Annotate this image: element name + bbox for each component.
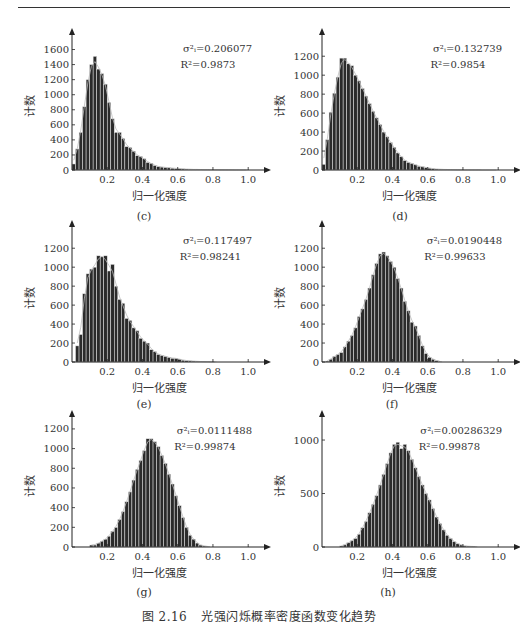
- histogram-bar: [378, 254, 382, 362]
- y-axis-label: 计数: [274, 287, 287, 309]
- y-axis-label: 计数: [24, 287, 37, 309]
- histogram-bar: [153, 442, 157, 547]
- histogram-bar: [139, 156, 143, 170]
- histogram-bar: [178, 506, 182, 547]
- histogram-bar: [146, 439, 150, 547]
- histogram-bar: [403, 161, 407, 170]
- r-squared-annotation: R²=0.9854: [431, 59, 486, 70]
- x-tick-label: 1.0: [240, 366, 256, 377]
- histogram-bar: [382, 474, 386, 547]
- histogram-bar: [146, 162, 150, 170]
- histogram-bar: [421, 485, 425, 547]
- histogram-bar: [364, 521, 368, 547]
- histogram-bar: [428, 500, 432, 547]
- panel-label-h: (h): [368, 586, 408, 599]
- histogram-bar: [382, 252, 386, 362]
- r-squared-annotation: R²=0.9873: [181, 59, 236, 70]
- x-tick-label: 1.0: [240, 551, 256, 562]
- histogram-bar: [368, 288, 372, 362]
- histogram-f: 0.20.40.60.81.0020040060080010001200归一化强…: [270, 222, 520, 397]
- histogram-bar: [118, 132, 122, 170]
- histogram-bar: [347, 341, 351, 362]
- histogram-bar: [114, 286, 118, 362]
- histogram-bar: [76, 346, 80, 362]
- panel-h: 0.20.40.60.81.005001000归一化强度计数σ²ᵢ=0.0028…: [270, 412, 520, 602]
- histogram-bar: [389, 453, 393, 547]
- y-tick-label: 600: [300, 108, 319, 119]
- y-tick-label: 400: [300, 127, 319, 138]
- y-tick-label: 600: [50, 300, 69, 311]
- y-axis-arrow-icon: [319, 220, 325, 227]
- histogram-bar: [93, 267, 97, 362]
- histogram-c: 0.20.40.60.81.00200400600800100012001400…: [20, 30, 270, 205]
- histogram-bar: [157, 167, 161, 170]
- panel-label-e: (e): [124, 398, 164, 411]
- y-tick-label: 1200: [44, 423, 69, 434]
- histogram-bar: [403, 444, 407, 547]
- histogram-bar: [139, 338, 143, 362]
- histogram-bar: [364, 299, 368, 362]
- x-tick-label: 0.8: [205, 174, 221, 185]
- histogram-bar: [392, 444, 396, 547]
- y-tick-label: 200: [50, 149, 69, 160]
- histogram-bar: [400, 449, 404, 547]
- scintillation-index-annotation: σ²ᵢ=0.132739: [433, 43, 502, 54]
- histogram-bar: [389, 143, 393, 170]
- x-tick-label: 0.8: [455, 551, 471, 562]
- histogram-bar: [121, 138, 125, 170]
- histogram-bar: [171, 358, 175, 362]
- x-tick-label: 0.2: [99, 551, 115, 562]
- histogram-bar: [407, 451, 411, 547]
- histogram-bar: [400, 157, 404, 170]
- y-tick-label: 1000: [44, 262, 69, 273]
- histogram-bar: [125, 147, 129, 170]
- histogram-bar: [371, 504, 375, 547]
- histogram-bar: [90, 65, 94, 170]
- y-tick-label: 0: [313, 165, 319, 176]
- x-tick-label: 0.6: [170, 174, 186, 185]
- y-tick-label: 1400: [44, 59, 69, 70]
- histogram-bar: [188, 535, 192, 547]
- x-tick-label: 0.2: [349, 366, 365, 377]
- histogram-h: 0.20.40.60.81.005001000归一化强度计数σ²ᵢ=0.0028…: [270, 412, 520, 582]
- histogram-bar: [350, 66, 354, 170]
- histogram-bar: [79, 335, 83, 362]
- y-tick-label: 0: [63, 357, 69, 368]
- histogram-bar: [90, 269, 94, 362]
- histogram-bar: [142, 451, 146, 547]
- histogram-bar: [97, 256, 101, 362]
- x-tick-label: 0.2: [99, 366, 115, 377]
- y-tick-label: 200: [300, 338, 319, 349]
- histogram-bar: [414, 468, 418, 547]
- histogram-bar: [403, 301, 407, 362]
- histogram-bar: [135, 156, 139, 170]
- y-tick-label: 0: [313, 357, 319, 368]
- x-axis-arrow-icon: [514, 359, 520, 365]
- y-tick-label: 1000: [294, 70, 319, 81]
- x-tick-label: 0.4: [135, 551, 151, 562]
- page-header-rule: [18, 7, 510, 8]
- histogram-bar: [357, 316, 361, 362]
- histogram-bar: [132, 480, 136, 547]
- histogram-bar: [107, 102, 111, 170]
- panel-e: 0.20.40.60.81.0020040060080010001200归一化强…: [20, 222, 270, 412]
- r-squared-annotation: R²=0.99874: [174, 441, 235, 452]
- histogram-bar: [128, 147, 132, 170]
- y-axis-label: 计数: [274, 95, 287, 117]
- histogram-bar: [354, 75, 358, 170]
- y-tick-label: 800: [50, 281, 69, 292]
- histogram-bar: [389, 261, 393, 362]
- histogram-bar: [107, 536, 111, 547]
- x-tick-label: 1.0: [490, 551, 506, 562]
- panel-d: 0.20.40.60.81.0020040060080010001200归一化强…: [270, 30, 520, 220]
- y-tick-label: 1000: [294, 262, 319, 273]
- scintillation-index-annotation: σ²ᵢ=0.0111488: [177, 425, 252, 436]
- histogram-bar: [368, 104, 372, 170]
- histogram-bar: [378, 485, 382, 547]
- y-tick-label: 400: [50, 502, 69, 513]
- y-tick-label: 200: [50, 338, 69, 349]
- x-axis-label: 归一化强度: [382, 381, 437, 395]
- scintillation-index-annotation: σ²ᵢ=0.0190448: [427, 235, 502, 246]
- y-tick-label: 600: [50, 119, 69, 130]
- histogram-bar: [424, 494, 428, 547]
